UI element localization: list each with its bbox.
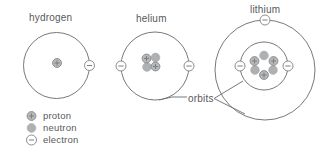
neutron-icon	[151, 53, 160, 62]
proton-icon	[53, 59, 62, 68]
legend-electron-label: electron	[43, 135, 78, 145]
legend-proton-label: proton	[43, 111, 71, 121]
neutron-icon	[260, 51, 269, 60]
hydrogen-label: hydrogen	[29, 12, 72, 23]
helium-label: helium	[136, 13, 167, 24]
proton-icon	[142, 54, 151, 63]
electron-icon	[283, 61, 293, 71]
electron-icon	[260, 15, 270, 25]
neutron-icon	[143, 63, 152, 72]
lithium-label: lithium	[250, 4, 280, 15]
proton-icon	[151, 62, 160, 71]
helium-atom	[116, 32, 194, 100]
lithium-atom	[215, 15, 315, 120]
neutron-icon	[269, 66, 278, 75]
outer-orbit-circle	[215, 20, 315, 120]
proton-icon	[260, 71, 269, 80]
proton-icon	[269, 57, 278, 66]
electron-icon	[184, 61, 194, 71]
inner-orbit-circle	[240, 42, 288, 90]
electron-icon	[116, 61, 126, 71]
orbits-annotation-label: orbits	[188, 93, 214, 104]
electron-icon	[85, 61, 95, 71]
leader-line-lithium	[214, 81, 245, 114]
neutron-icon	[251, 66, 260, 75]
legend-neutron-label: neutron	[43, 123, 77, 133]
electron-icon	[235, 61, 245, 71]
atomic-structure-diagram: hydrogen helium lithium orbits proton ne…	[0, 0, 324, 154]
proton-icon	[250, 57, 259, 66]
hydrogen-atom	[24, 33, 95, 99]
